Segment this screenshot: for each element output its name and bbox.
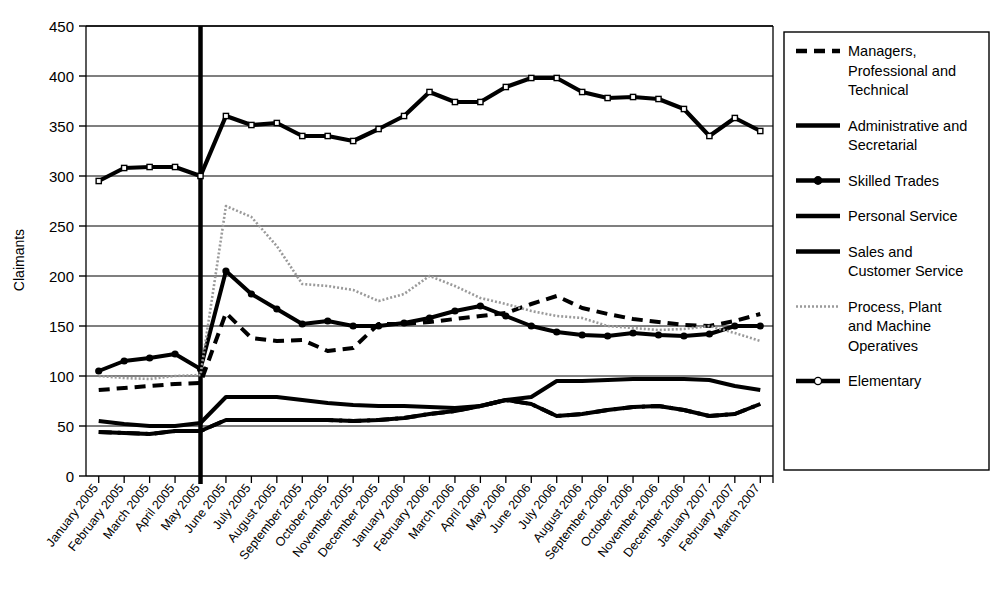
data-point xyxy=(375,322,382,329)
legend-item-label: Personal Service xyxy=(848,208,958,224)
data-point xyxy=(707,133,712,138)
data-point xyxy=(528,322,535,329)
legend-item-label: Administrative and xyxy=(848,118,967,134)
data-point xyxy=(656,96,661,101)
data-point xyxy=(706,330,713,337)
data-point xyxy=(299,320,306,327)
data-point xyxy=(731,322,738,329)
data-point xyxy=(400,319,407,326)
legend-marker xyxy=(814,377,821,384)
y-tick-label: 150 xyxy=(49,318,74,335)
legend-item-label: Secretarial xyxy=(848,137,917,153)
data-point xyxy=(605,95,610,100)
data-point xyxy=(629,329,636,336)
data-point xyxy=(273,305,280,312)
data-point xyxy=(95,367,102,374)
legend-item-label: Professional and xyxy=(848,63,956,79)
data-point xyxy=(274,120,279,125)
data-point xyxy=(351,138,356,143)
data-point xyxy=(172,164,177,169)
data-point xyxy=(401,113,406,118)
legend-item-label: Sales and xyxy=(848,244,913,260)
y-tick-label: 200 xyxy=(49,268,74,285)
data-point xyxy=(579,331,586,338)
legend-item-label: Elementary xyxy=(848,373,922,389)
legend-item-label: Operatives xyxy=(848,338,918,354)
data-point xyxy=(680,332,687,339)
data-point xyxy=(222,267,229,274)
data-point xyxy=(553,328,560,335)
y-axis-title: Claimants xyxy=(11,229,27,291)
y-tick-label: 300 xyxy=(49,168,74,185)
data-point xyxy=(478,99,483,104)
legend-item-label: Technical xyxy=(848,82,908,98)
data-point xyxy=(248,290,255,297)
legend-marker xyxy=(814,176,823,185)
data-point xyxy=(171,350,178,357)
data-point xyxy=(147,164,152,169)
y-tick-label: 100 xyxy=(49,368,74,385)
data-point xyxy=(426,314,433,321)
data-point xyxy=(604,332,611,339)
data-point xyxy=(198,173,203,178)
legend-item[interactable]: Elementary xyxy=(848,373,922,389)
data-point xyxy=(223,113,228,118)
legend-item[interactable]: Personal Service xyxy=(848,208,958,224)
data-point xyxy=(732,115,737,120)
data-point xyxy=(376,126,381,131)
data-point xyxy=(502,312,509,319)
data-point xyxy=(350,322,357,329)
legend-item-label: Skilled Trades xyxy=(848,173,939,189)
data-point xyxy=(324,317,331,324)
legend-item-label: Process, Plant xyxy=(848,299,942,315)
data-point xyxy=(529,75,534,80)
legend-item-label: and Machine xyxy=(848,318,931,334)
y-tick-label: 50 xyxy=(57,418,74,435)
y-tick-label: 250 xyxy=(49,218,74,235)
y-tick-label: 400 xyxy=(49,68,74,85)
data-point xyxy=(554,75,559,80)
data-point xyxy=(146,354,153,361)
y-tick-label: 450 xyxy=(49,18,74,35)
data-point xyxy=(121,357,128,364)
y-tick-label: 0 xyxy=(66,468,74,485)
legend-item-label: Customer Service xyxy=(848,263,963,279)
data-point xyxy=(503,84,508,89)
data-point xyxy=(655,331,662,338)
chart-canvas: 050100150200250300350400450 January 2005… xyxy=(0,0,995,598)
claimants-line-chart: 050100150200250300350400450 January 2005… xyxy=(0,0,995,598)
data-point xyxy=(300,133,305,138)
data-point xyxy=(758,128,763,133)
data-point xyxy=(681,106,686,111)
chart-legend: Managers,Professional andTechnicalAdmini… xyxy=(784,32,989,470)
legend-item[interactable]: Skilled Trades xyxy=(848,173,939,189)
data-point xyxy=(96,178,101,183)
data-point xyxy=(630,94,635,99)
data-point xyxy=(757,322,764,329)
data-point xyxy=(325,133,330,138)
data-point xyxy=(477,302,484,309)
data-point xyxy=(122,165,127,170)
data-point xyxy=(249,122,254,127)
data-point xyxy=(452,99,457,104)
y-tick-label: 350 xyxy=(49,118,74,135)
legend-item-label: Managers, xyxy=(848,43,917,59)
data-point xyxy=(427,89,432,94)
data-point xyxy=(580,89,585,94)
data-point xyxy=(451,307,458,314)
